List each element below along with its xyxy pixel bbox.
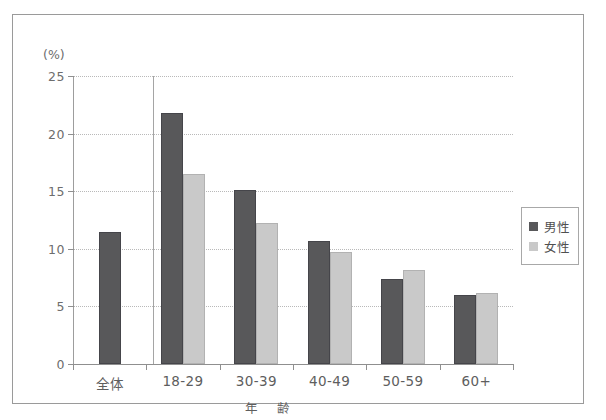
x-axis-title: 年 齢	[245, 398, 293, 417]
y-tick-label-20: 20	[29, 126, 65, 141]
category-tick	[513, 364, 514, 370]
y-tick-label-15: 15	[29, 184, 65, 199]
bar-group	[73, 76, 146, 364]
category-label-40-49: 40-49	[290, 373, 370, 389]
legend-label-female: 女性	[544, 237, 570, 256]
legend-swatch-female-icon	[529, 242, 538, 251]
category-tick	[366, 364, 367, 370]
bar-male	[381, 279, 403, 364]
category-tick	[73, 364, 74, 370]
bar-group	[440, 76, 513, 364]
bar-male	[308, 241, 330, 364]
category-label-50-59: 50-59	[363, 373, 443, 389]
category-tick	[146, 364, 147, 370]
bar-male	[454, 295, 476, 364]
category-label-60+: 60+	[436, 373, 516, 389]
category-tick	[440, 364, 441, 370]
legend-item-male: 男性	[529, 216, 572, 236]
bar-group	[146, 76, 219, 364]
y-tick-label-25: 25	[29, 69, 65, 84]
bar-group	[366, 76, 439, 364]
plot-area: 0510152025	[73, 76, 513, 364]
bar-female	[403, 270, 425, 364]
category-label-30-39: 30-39	[216, 373, 296, 389]
bar-male	[234, 190, 256, 364]
bar-female	[330, 252, 352, 364]
bar-female	[476, 293, 498, 364]
y-tick-label-0: 0	[29, 357, 65, 372]
bar-male	[99, 232, 121, 364]
bar-female	[256, 223, 278, 364]
y-tick-label-10: 10	[29, 241, 65, 256]
legend-label-male: 男性	[544, 217, 570, 236]
category-tick	[220, 364, 221, 370]
figure-container: (%) 0510152025 全体18-2930-3940-4950-5960+…	[0, 0, 606, 420]
figure-frame: (%) 0510152025 全体18-2930-3940-4950-5960+…	[12, 14, 584, 404]
category-label-18-29: 18-29	[143, 373, 223, 389]
category-tick	[293, 364, 294, 370]
bar-female	[183, 174, 205, 364]
chart-legend: 男性 女性	[521, 207, 579, 265]
legend-item-female: 女性	[529, 236, 572, 256]
bar-male	[161, 113, 183, 364]
category-label-全体: 全体	[70, 373, 150, 393]
y-tick-label-5: 5	[29, 299, 65, 314]
legend-swatch-male-icon	[529, 222, 538, 231]
bar-group	[293, 76, 366, 364]
bar-group	[220, 76, 293, 364]
y-axis-unit-label: (%)	[43, 47, 65, 62]
